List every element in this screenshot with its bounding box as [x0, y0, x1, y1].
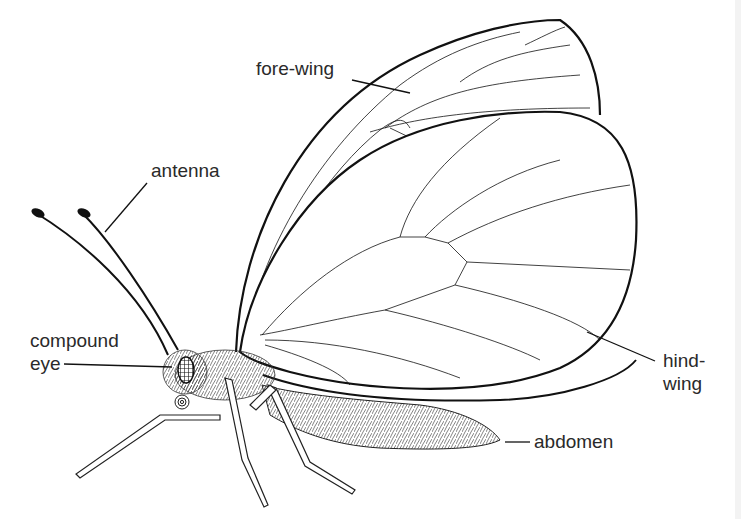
compound-eye-label-line2: eye [30, 353, 61, 375]
abdomen-label: abdomen [534, 431, 613, 453]
butterfly-illustration [0, 0, 741, 519]
compound-eye-leader [64, 364, 172, 367]
compound-eye-label-line1: compound [30, 330, 119, 352]
hind-wing-label-line1: hind- [663, 350, 705, 372]
hind-wing [240, 112, 636, 389]
page-edge [735, 0, 741, 519]
compound-eye-shape [178, 357, 194, 383]
butterfly-diagram: fore-wing antenna compound eye hind- win… [0, 0, 741, 519]
hind-wing-label-line2: wing [663, 373, 702, 395]
hind-wing-leader [587, 332, 655, 361]
antenna-label: antenna [151, 160, 220, 182]
fore-wing-label: fore-wing [256, 58, 334, 80]
antenna-leader [105, 183, 147, 232]
